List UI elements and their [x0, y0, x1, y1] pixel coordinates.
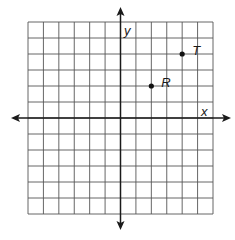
y-axis-label: y: [123, 23, 132, 38]
point-t-dot: [180, 51, 185, 56]
point-r-label: R: [161, 75, 170, 90]
point-r-dot: [149, 83, 154, 88]
coordinate-plane: x y RT: [0, 0, 235, 240]
point-t-label: T: [192, 43, 201, 58]
points: RT: [149, 43, 201, 90]
x-axis-label: x: [200, 104, 208, 119]
